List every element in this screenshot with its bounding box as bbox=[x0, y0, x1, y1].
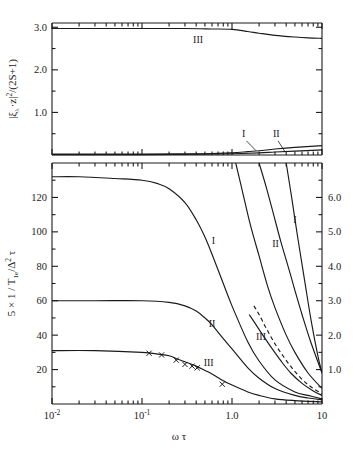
top-ylabel: |ξλ·z|2/(2S+1) bbox=[5, 59, 21, 119]
bottom-right-ytick-label: 4.0 bbox=[328, 261, 341, 272]
top-ylabel-group: |ξλ·z|2/(2S+1) bbox=[5, 59, 21, 119]
bottom-xlabel: ω τ bbox=[172, 430, 187, 442]
figure-container: 3.02.01.0IIIIII|ξλ·z|2/(2S+1)12010080604… bbox=[0, 0, 358, 468]
bottom-curve-label-I: I bbox=[212, 235, 215, 246]
bottom-curve-label-III: III bbox=[204, 357, 214, 368]
bottom-right-curve-I bbox=[259, 163, 322, 373]
bottom-left-ytick-label: 20 bbox=[37, 364, 48, 375]
bottom-xtick-label: 10-2 bbox=[44, 408, 61, 421]
bottom-curve-label-II: II bbox=[272, 238, 279, 249]
top-curve-label-II: II bbox=[273, 128, 280, 139]
bottom-right-ytick-label: 1.0 bbox=[328, 364, 341, 375]
bottom-curve-label-II: II bbox=[209, 318, 216, 329]
bottom-right-ytick-label: 2.0 bbox=[328, 330, 341, 341]
bottom-right-curve-III-dashed bbox=[254, 306, 322, 394]
bottom-curve-label-III: III bbox=[256, 331, 266, 342]
bottom-right-curve-extra-right bbox=[286, 163, 322, 373]
bottom-left-ytick-label: 80 bbox=[37, 261, 48, 272]
bottom-right-ytick-label: 3.0 bbox=[328, 295, 341, 306]
bottom-right-curve-III bbox=[249, 314, 322, 395]
bottom-ylabel-group: 5 × 1 / T1e/Δ2 τ bbox=[4, 250, 20, 316]
bottom-xtick-label: 10-1 bbox=[134, 408, 151, 421]
top-ytick-label: 1.0 bbox=[34, 107, 47, 118]
top-curve-label-III: III bbox=[193, 34, 203, 45]
bottom-right-curve-II bbox=[236, 163, 322, 389]
plot-svg: 3.02.01.0IIIIII|ξλ·z|2/(2S+1)12010080604… bbox=[0, 0, 358, 468]
bottom-curves bbox=[52, 163, 322, 402]
bottom-left-ytick-label: 60 bbox=[37, 295, 48, 306]
bottom-right-ytick-label: 5.0 bbox=[328, 226, 341, 237]
bottom-left-curve-I bbox=[52, 177, 322, 399]
top-ytick-label: 3.0 bbox=[34, 22, 47, 33]
bottom-xtick-label: 1.0 bbox=[225, 410, 238, 421]
top-curve-III bbox=[52, 29, 322, 39]
top-leader-I bbox=[247, 141, 257, 151]
top-curve-label-I: I bbox=[242, 128, 245, 139]
bottom-xtick-label: 10 bbox=[317, 410, 328, 421]
bottom-left-curve-III bbox=[52, 351, 322, 402]
top-ytick-label: 2.0 bbox=[34, 64, 47, 75]
bottom-left-ytick-label: 40 bbox=[37, 330, 48, 341]
bottom-right-ytick-label: 6.0 bbox=[328, 192, 341, 203]
bottom-left-ytick-label: 100 bbox=[31, 226, 47, 237]
bottom-curve-label-I: I bbox=[293, 214, 296, 225]
bottom-ylabel: 5 × 1 / T1e/Δ2 τ bbox=[4, 250, 20, 316]
bottom-left-ytick-label: 120 bbox=[31, 192, 47, 203]
top-leader-II bbox=[278, 141, 285, 152]
